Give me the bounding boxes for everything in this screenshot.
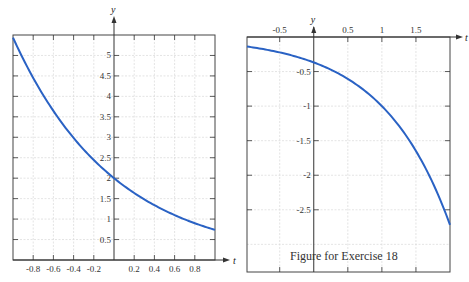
y-tick-label: -0.5 bbox=[297, 67, 312, 77]
x-tick-label: 0.5 bbox=[342, 25, 354, 35]
y-tick-label: -2.5 bbox=[297, 205, 312, 215]
x-axis-label: t bbox=[465, 32, 468, 43]
y-tick-label: -1.5 bbox=[297, 136, 312, 146]
y-axis-label: y bbox=[310, 14, 316, 25]
y-tick-label: -1 bbox=[303, 101, 311, 111]
x-tick-label: 1 bbox=[380, 25, 385, 35]
solution-curve bbox=[247, 47, 450, 225]
figure-caption: Figure for Exercise 18 bbox=[290, 249, 398, 264]
plot-frame bbox=[247, 37, 450, 272]
chart-right: yt-0.50.511.5-0.5-1-1.5-2-2.5 bbox=[0, 0, 469, 282]
x-tick-label: 1.5 bbox=[410, 25, 422, 35]
x-tick-label: -0.5 bbox=[273, 25, 288, 35]
x-axis-arrow-icon bbox=[456, 35, 463, 40]
y-axis-arrow-icon bbox=[311, 26, 316, 33]
y-tick-label: -2 bbox=[303, 170, 311, 180]
